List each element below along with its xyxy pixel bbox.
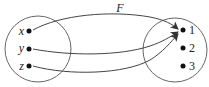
codomain-element-1: 1: [181, 23, 196, 37]
domain-element-x: x: [18, 24, 32, 38]
function-label: F: [115, 1, 124, 15]
svg-text:z: z: [18, 59, 24, 73]
codomain-set: [143, 18, 207, 82]
arrow-y-to-1: [33, 32, 178, 54]
function-diagram: F x y z 1 2 3: [0, 0, 209, 87]
svg-text:y: y: [18, 41, 25, 55]
arrow-x-to-1: [33, 14, 178, 30]
domain-element-y: y: [18, 41, 32, 55]
codomain-element-2: 2: [181, 41, 196, 55]
svg-text:2: 2: [189, 41, 195, 55]
codomain-element-3: 3: [181, 59, 196, 73]
domain-element-z: z: [18, 59, 31, 73]
svg-text:1: 1: [189, 23, 195, 37]
svg-text:3: 3: [189, 59, 195, 73]
svg-text:x: x: [18, 24, 25, 38]
domain-set: [5, 16, 71, 82]
